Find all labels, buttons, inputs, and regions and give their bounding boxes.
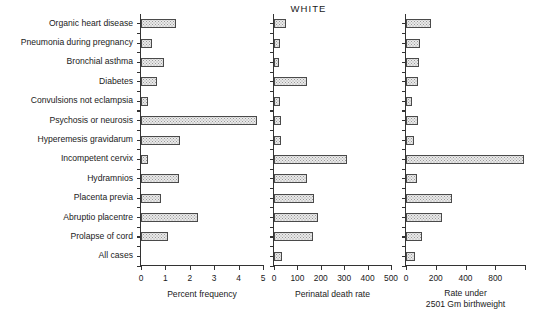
bar [141, 39, 152, 48]
y-axis-tick [270, 120, 274, 121]
y-axis-tick [137, 236, 141, 237]
y-axis-tick [402, 101, 406, 102]
y-axis-tick-minor [137, 227, 141, 228]
y-axis-tick-minor [270, 110, 274, 111]
y-axis-tick-minor [270, 91, 274, 92]
bar [141, 19, 176, 28]
x-axis-caption-line: Percent frequency [167, 289, 237, 299]
bar [406, 252, 415, 261]
x-axis-tick [525, 266, 526, 270]
y-axis-tick-minor [270, 169, 274, 170]
category-label: Abruptio placentre [0, 213, 133, 222]
bar [274, 252, 282, 261]
bar [274, 19, 286, 28]
x-axis-tick [214, 266, 215, 270]
bar [274, 97, 280, 106]
y-axis-tick [270, 140, 274, 141]
y-axis-tick-minor [402, 110, 406, 111]
y-axis-tick [270, 178, 274, 179]
y-axis-tick-minor [270, 246, 274, 247]
y-axis-tick-minor [137, 149, 141, 150]
bar [274, 58, 279, 67]
x-axis-caption-line: Perinatal death rate [295, 289, 370, 299]
y-axis-tick [402, 120, 406, 121]
x-axis-tick [495, 266, 496, 270]
x-axis-caption-line: Rate under [426, 288, 505, 299]
x-axis-tick [466, 266, 467, 270]
bar [406, 97, 412, 106]
bar [274, 136, 281, 145]
y-axis-tick [137, 198, 141, 199]
category-label: Bronchial asthma [0, 57, 133, 66]
plot-area: 0100200300400500Perinatal death rate [274, 14, 391, 266]
y-axis-tick [270, 43, 274, 44]
category-label: Prolapse of cord [0, 232, 133, 241]
y-axis-tick-minor [402, 169, 406, 170]
x-axis-tick [391, 266, 392, 270]
bar [406, 116, 418, 125]
x-axis-tick-label: 800 [475, 273, 515, 283]
y-axis-tick-minor [270, 188, 274, 189]
bar [141, 136, 180, 145]
y-axis-tick-minor [270, 33, 274, 34]
panel-perinatal-death-rate: 0100200300400500Perinatal death rate [273, 14, 392, 266]
category-label-column: Organic heart diseasePneumonia during pr… [0, 14, 137, 266]
bar [406, 58, 419, 67]
bar [141, 232, 168, 241]
y-axis-tick [270, 217, 274, 218]
y-axis-tick-minor [270, 227, 274, 228]
bar [274, 77, 307, 86]
y-axis-tick [270, 23, 274, 24]
x-axis-tick [190, 266, 191, 270]
chart-title-text: WHITE [290, 3, 326, 14]
y-axis-tick-minor [402, 91, 406, 92]
y-axis-tick [137, 81, 141, 82]
bar [406, 232, 422, 241]
category-label: Convulsions not eclampsia [0, 96, 133, 105]
panel-percent-frequency: 012345Percent frequency [140, 14, 264, 266]
y-axis-tick-minor [137, 246, 141, 247]
y-axis-tick-minor [137, 33, 141, 34]
y-axis-tick-minor [402, 52, 406, 53]
bar [406, 194, 452, 203]
category-label: Hyperemesis gravidarum [0, 135, 133, 144]
y-axis-tick-minor [270, 130, 274, 131]
bar [406, 174, 417, 183]
plot-area: 0200400800Rate under2501 Gm birthweight [406, 14, 525, 266]
y-axis-tick-minor [137, 52, 141, 53]
bar [141, 58, 164, 67]
y-axis-tick [270, 159, 274, 160]
y-axis-tick-minor [402, 246, 406, 247]
y-axis-tick [402, 217, 406, 218]
y-axis-tick-minor [402, 227, 406, 228]
y-axis-tick-minor [137, 169, 141, 170]
bar [141, 116, 257, 125]
bar [274, 155, 347, 164]
bar [406, 136, 414, 145]
bar [274, 39, 280, 48]
y-axis-tick-minor [402, 188, 406, 189]
plot-area: 012345Percent frequency [141, 14, 263, 266]
bar [274, 194, 314, 203]
category-label: Pneumonia during pregnancy [0, 38, 133, 47]
x-axis-tick [239, 266, 240, 270]
bar [406, 77, 418, 86]
x-axis-caption-line: 2501 Gm birthweight [426, 299, 505, 310]
y-axis-tick-minor [137, 188, 141, 189]
y-axis-tick [137, 23, 141, 24]
x-axis-tick [436, 266, 437, 270]
y-axis-tick [137, 159, 141, 160]
y-axis-tick [137, 217, 141, 218]
bar [141, 194, 161, 203]
bar [141, 174, 179, 183]
x-axis-tick [368, 266, 369, 270]
y-axis-tick [137, 178, 141, 179]
y-axis-tick-minor [137, 72, 141, 73]
x-axis-tick [141, 266, 142, 270]
x-axis-tick [263, 266, 264, 270]
y-axis-tick [270, 256, 274, 257]
bar [141, 213, 198, 222]
y-axis-tick-minor [270, 207, 274, 208]
bar [274, 232, 313, 241]
y-axis-tick-minor [402, 130, 406, 131]
